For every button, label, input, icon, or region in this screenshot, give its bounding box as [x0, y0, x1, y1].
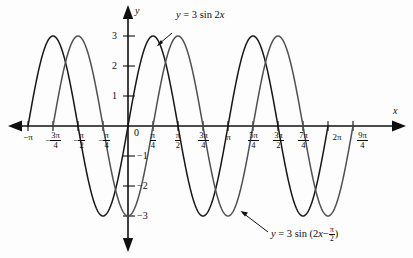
curve-b-annotation: y = 3 sin (2x−π2)	[271, 226, 338, 242]
x-axis-arrow-right	[392, 121, 406, 132]
fraction: π4	[103, 131, 109, 149]
x-tick-label-minus-pi: −π	[20, 133, 36, 142]
x-tick-text: 2π	[332, 132, 341, 142]
y-axis-arrow-down	[123, 238, 133, 252]
y-axis-arrow-up	[123, 5, 133, 19]
x-tick-label-3pi-over-2: 3π2	[270, 131, 287, 149]
fraction: π4	[150, 131, 156, 149]
x-tick-label-pi-over-2: π2	[172, 131, 184, 149]
denominator: 2	[175, 141, 181, 150]
denominator: 4	[248, 141, 259, 150]
x-tick-label-5pi-over-4: 5π4	[245, 131, 262, 149]
y-axis-label: y	[135, 6, 139, 16]
denominator: 4	[298, 141, 309, 150]
x-axis-label: x	[393, 106, 397, 116]
y-tick-label-minus-1: −1	[137, 151, 148, 161]
fraction: π2	[78, 131, 84, 149]
sine-graph-figure: y x 0 −π −3π4 −π2 −π4 π4 π2 3π4 π 5π4 3π…	[0, 0, 413, 258]
x-tick-label-pi: π	[223, 133, 234, 142]
annotation-equals: =	[278, 228, 284, 239]
fraction: 3π4	[198, 131, 209, 149]
plot-canvas	[0, 0, 413, 258]
y-tick-label-2: 2	[112, 61, 117, 71]
x-tick-label-3pi-over-4: 3π4	[195, 131, 212, 149]
x-tick-label-minus-pi-over-2: −π2	[68, 131, 90, 149]
annotation-rhs: 3 sin 2	[192, 9, 220, 20]
x-tick-label-2pi: 2π	[329, 133, 345, 142]
denominator: 4	[103, 141, 109, 150]
fraction: 5π4	[248, 131, 259, 149]
x-tick-label-9pi-over-4: 9π4	[354, 131, 371, 149]
leader-line-curve-b	[243, 213, 268, 232]
annotation-equals: =	[183, 9, 189, 20]
x-tick-label-minus-3pi-over-4: −3π4	[41, 131, 65, 149]
annotation-rhs: 3 sin (2	[287, 228, 319, 239]
denominator: 2	[273, 141, 284, 150]
x-tick-label-7pi-over-4: 7π4	[295, 131, 312, 149]
annotation-lhs: y	[176, 9, 181, 20]
annotation-rhs-var: x	[220, 9, 225, 20]
y-tick-label-1: 1	[112, 91, 117, 101]
annotation-lhs: y	[271, 228, 276, 239]
annotation-close-paren: )	[335, 228, 339, 239]
fraction: 9π4	[357, 131, 368, 149]
fraction: π2	[175, 131, 181, 149]
x-axis-arrow-left	[8, 121, 22, 132]
curve-a-annotation: y = 3 sin 2x	[176, 10, 225, 21]
denominator: 4	[150, 141, 156, 150]
x-tick-label-pi-over-4: π4	[147, 131, 159, 149]
x-tick-text: −π	[23, 132, 33, 142]
denominator: 4	[50, 141, 61, 150]
fraction: 3π2	[273, 131, 284, 149]
x-tick-text: π	[226, 132, 231, 142]
denominator: 4	[198, 141, 209, 150]
x-tick-label-minus-pi-over-4: −π4	[93, 131, 115, 149]
denominator: 2	[78, 141, 84, 150]
y-tick-label-3: 3	[112, 31, 117, 41]
fraction: 3π4	[50, 131, 61, 149]
denominator: 4	[357, 141, 368, 150]
y-tick-label-minus-3: −3	[137, 211, 148, 221]
y-tick-label-minus-2: −2	[137, 181, 148, 191]
fraction: 7π4	[298, 131, 309, 149]
origin-label: 0	[134, 128, 139, 138]
